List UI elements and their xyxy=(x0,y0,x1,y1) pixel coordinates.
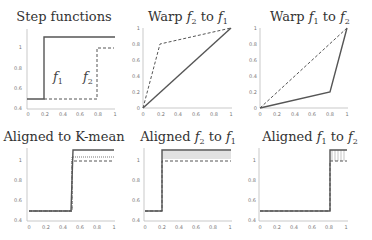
series-f1 xyxy=(27,37,115,99)
panel-aligned-f2-to-f1: Aligned f2 to f1 0.4 0.6 0.8 1 0 0.2 0.4… xyxy=(132,129,236,230)
panel-step-functions: Step functions 0.4 0.6 0.8 1 0 0.2 0.4 0… xyxy=(14,9,117,117)
svg-text:0.4: 0.4 xyxy=(174,111,182,117)
svg-text:0.4: 0.4 xyxy=(248,217,256,223)
panel-title: Warp f1 to f2 xyxy=(270,9,350,26)
svg-text:0: 0 xyxy=(254,105,257,111)
svg-text:0.2: 0.2 xyxy=(249,89,257,95)
svg-text:0.8: 0.8 xyxy=(248,177,256,183)
svg-text:1: 1 xyxy=(254,25,257,31)
svg-text:0.4: 0.4 xyxy=(132,73,140,79)
svg-text:0.6: 0.6 xyxy=(14,197,22,203)
svg-text:0.8: 0.8 xyxy=(249,41,257,47)
svg-text:1: 1 xyxy=(113,111,116,117)
svg-text:0: 0 xyxy=(137,105,140,111)
svg-text:0.4: 0.4 xyxy=(14,217,22,223)
hatched-band xyxy=(332,150,344,161)
series-f1 xyxy=(145,150,231,211)
panel-warp-f1-to-f2: Warp f1 to f2 0 0.2 0.4 0.6 0.8 1 0 0.2 … xyxy=(249,9,350,117)
svg-text:0.4: 0.4 xyxy=(249,73,257,79)
svg-text:1: 1 xyxy=(19,157,22,163)
panel-aligned-to-k-mean: Aligned to K-mean 0.4 0.6 0.8 1 0 0.2 0.… xyxy=(2,129,125,230)
svg-text:0.4: 0.4 xyxy=(175,224,183,230)
svg-text:0.2: 0.2 xyxy=(157,111,165,117)
svg-text:0: 0 xyxy=(143,224,146,230)
y-tick-labels: 0.4 0.6 0.8 1 xyxy=(14,157,22,223)
annotation-f2: f2 xyxy=(82,69,93,86)
svg-text:0.6: 0.6 xyxy=(308,224,316,230)
svg-text:0.2: 0.2 xyxy=(42,224,50,230)
svg-text:0.6: 0.6 xyxy=(76,111,84,117)
svg-text:0.8: 0.8 xyxy=(132,41,140,47)
svg-text:0.4: 0.4 xyxy=(132,217,140,223)
svg-text:0.6: 0.6 xyxy=(14,85,22,91)
svg-text:0.8: 0.8 xyxy=(94,111,102,117)
svg-text:0: 0 xyxy=(258,111,261,117)
svg-text:0.8: 0.8 xyxy=(325,224,333,230)
svg-text:0.2: 0.2 xyxy=(132,89,140,95)
x-tick-labels: 0 0.2 0.4 0.6 0.8 1 xyxy=(258,111,348,117)
svg-text:0.6: 0.6 xyxy=(132,57,140,63)
svg-text:1: 1 xyxy=(345,111,348,117)
hatched-band xyxy=(162,152,231,158)
svg-text:0.6: 0.6 xyxy=(249,57,257,63)
figure: Step functions 0.4 0.6 0.8 1 0 0.2 0.4 0… xyxy=(0,0,372,240)
y-tick-labels: 0 0.2 0.4 0.6 0.8 1 xyxy=(132,25,140,111)
x-tick-labels: 0 0.2 0.4 0.6 0.8 1 xyxy=(258,224,347,230)
panel-title: Aligned to K-mean xyxy=(2,129,125,144)
svg-text:1: 1 xyxy=(137,25,140,31)
svg-text:0.8: 0.8 xyxy=(209,224,217,230)
svg-text:0.8: 0.8 xyxy=(210,111,218,117)
svg-text:1: 1 xyxy=(229,111,232,117)
svg-text:0.4: 0.4 xyxy=(290,224,298,230)
x-tick-labels: 0 0.2 0.4 0.6 0.8 1 xyxy=(26,111,116,117)
series-f1-aligned xyxy=(260,150,347,211)
svg-text:0.8: 0.8 xyxy=(132,177,140,183)
x-tick-labels: 0 0.2 0.4 0.6 0.8 1 xyxy=(141,111,232,117)
svg-text:0.2: 0.2 xyxy=(273,111,281,117)
svg-text:0.2: 0.2 xyxy=(273,224,281,230)
svg-text:1: 1 xyxy=(19,44,22,50)
svg-text:0.2: 0.2 xyxy=(41,111,49,117)
svg-text:0.2: 0.2 xyxy=(158,224,166,230)
y-tick-labels: 0 0.2 0.4 0.6 0.8 1 xyxy=(249,25,257,111)
panel-aligned-f1-to-f2: Aligned f1 to f2 0.4 0.6 0.8 1 0 0.2 0.4… xyxy=(248,129,358,230)
svg-text:1: 1 xyxy=(253,157,256,163)
svg-text:0.8: 0.8 xyxy=(326,111,334,117)
svg-text:0.4: 0.4 xyxy=(59,111,67,117)
series-identity xyxy=(260,28,347,108)
svg-text:0.8: 0.8 xyxy=(14,177,22,183)
svg-text:0.6: 0.6 xyxy=(192,111,200,117)
svg-text:0.6: 0.6 xyxy=(192,224,200,230)
svg-text:0: 0 xyxy=(27,224,30,230)
panel-warp-f2-to-f1: Warp f2 to f1 0 0.2 0.4 0.6 0.8 1 0 0.2 … xyxy=(132,9,233,117)
svg-text:0: 0 xyxy=(141,111,144,117)
y-tick-labels: 0.4 0.6 0.8 1 xyxy=(14,44,22,111)
annotation-f1: f1 xyxy=(52,69,63,86)
svg-text:0.8: 0.8 xyxy=(93,224,101,230)
svg-text:0.6: 0.6 xyxy=(132,197,140,203)
svg-text:0.6: 0.6 xyxy=(76,224,84,230)
svg-text:0.4: 0.4 xyxy=(291,111,299,117)
x-tick-labels: 0 0.2 0.4 0.6 0.8 1 xyxy=(27,224,115,230)
svg-text:0.4: 0.4 xyxy=(59,224,67,230)
panel-title: Aligned f1 to f2 xyxy=(261,129,358,146)
svg-text:0: 0 xyxy=(258,224,261,230)
series-f2-aligned xyxy=(145,161,231,211)
series-identity xyxy=(143,28,231,108)
panel-title: Warp f2 to f1 xyxy=(148,9,228,26)
svg-text:0.6: 0.6 xyxy=(248,197,256,203)
svg-text:1: 1 xyxy=(344,224,347,230)
y-tick-labels: 0.4 0.6 0.8 1 xyxy=(132,157,140,223)
svg-text:1: 1 xyxy=(228,224,231,230)
svg-text:0.8: 0.8 xyxy=(14,65,22,71)
svg-text:1: 1 xyxy=(112,224,115,230)
svg-text:0: 0 xyxy=(26,111,29,117)
panel-title: Step functions xyxy=(16,9,111,24)
series-f2 xyxy=(260,161,347,211)
x-tick-labels: 0 0.2 0.4 0.6 0.8 1 xyxy=(143,224,231,230)
svg-text:0.6: 0.6 xyxy=(308,111,316,117)
svg-text:1: 1 xyxy=(137,157,140,163)
panel-title: Aligned f2 to f1 xyxy=(139,129,236,146)
svg-text:0.4: 0.4 xyxy=(14,105,22,111)
y-tick-labels: 0.4 0.6 0.8 1 xyxy=(248,157,256,223)
